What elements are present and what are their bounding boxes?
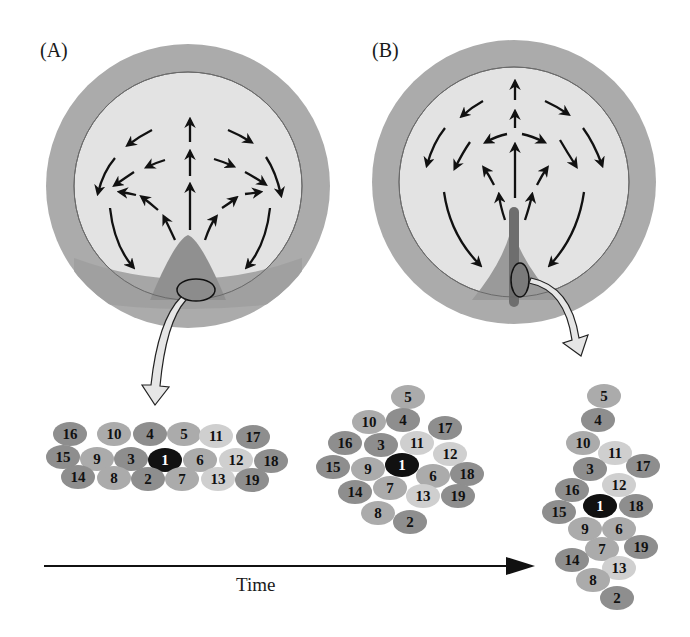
svg-text:9: 9 bbox=[581, 521, 589, 537]
svg-text:8: 8 bbox=[110, 470, 118, 486]
cell-19: 19 bbox=[235, 468, 269, 492]
cell-10: 10 bbox=[566, 431, 600, 455]
svg-text:19: 19 bbox=[451, 488, 466, 504]
cell-cluster-c: 54101131712161181596719141382 bbox=[542, 384, 660, 610]
cell-5: 5 bbox=[587, 384, 621, 408]
cell-16: 16 bbox=[555, 478, 589, 502]
svg-text:7: 7 bbox=[178, 471, 186, 487]
svg-text:13: 13 bbox=[211, 471, 226, 487]
cell-8: 8 bbox=[97, 466, 131, 490]
svg-text:14: 14 bbox=[71, 469, 87, 485]
svg-text:16: 16 bbox=[565, 482, 581, 498]
cell-9: 9 bbox=[568, 517, 602, 541]
svg-text:16: 16 bbox=[338, 435, 354, 451]
cell-12: 12 bbox=[433, 442, 467, 466]
svg-text:10: 10 bbox=[107, 426, 122, 442]
svg-text:14: 14 bbox=[565, 552, 581, 568]
svg-text:5: 5 bbox=[600, 388, 608, 404]
cell-4: 4 bbox=[581, 408, 615, 432]
svg-text:1: 1 bbox=[161, 452, 169, 468]
cell-5: 5 bbox=[391, 385, 425, 409]
cell-16: 16 bbox=[53, 422, 87, 446]
cell-2: 2 bbox=[393, 510, 427, 534]
svg-text:11: 11 bbox=[209, 428, 223, 444]
svg-text:8: 8 bbox=[589, 572, 597, 588]
svg-text:4: 4 bbox=[399, 412, 407, 428]
cell-14: 14 bbox=[555, 548, 589, 572]
svg-text:3: 3 bbox=[127, 451, 135, 467]
cell-3: 3 bbox=[573, 457, 607, 481]
svg-text:5: 5 bbox=[404, 389, 412, 405]
svg-text:1: 1 bbox=[596, 498, 604, 514]
cell-17: 17 bbox=[236, 425, 270, 449]
svg-text:13: 13 bbox=[416, 488, 431, 504]
svg-text:6: 6 bbox=[615, 521, 623, 537]
cell-14: 14 bbox=[61, 465, 95, 489]
embryo-a bbox=[46, 44, 330, 328]
embryo-b bbox=[372, 40, 656, 324]
cell-13: 13 bbox=[406, 484, 440, 508]
svg-text:9: 9 bbox=[364, 461, 372, 477]
cell-cluster-b: 51041716311121591618147131982 bbox=[316, 385, 484, 534]
cell-17: 17 bbox=[626, 454, 660, 478]
svg-text:15: 15 bbox=[326, 459, 341, 475]
svg-text:12: 12 bbox=[229, 452, 244, 468]
cell-7: 7 bbox=[373, 476, 407, 500]
svg-text:17: 17 bbox=[246, 429, 262, 445]
cell-4: 4 bbox=[386, 408, 420, 432]
cell-8: 8 bbox=[576, 568, 610, 592]
cell-2: 2 bbox=[131, 467, 165, 491]
svg-text:18: 18 bbox=[460, 466, 475, 482]
node-region-b bbox=[511, 263, 529, 297]
cell-13: 13 bbox=[201, 467, 235, 491]
svg-text:7: 7 bbox=[598, 541, 606, 557]
svg-text:17: 17 bbox=[438, 420, 454, 436]
svg-text:17: 17 bbox=[636, 458, 652, 474]
svg-text:10: 10 bbox=[576, 435, 591, 451]
svg-text:2: 2 bbox=[613, 590, 621, 606]
cell-3: 3 bbox=[364, 433, 398, 457]
svg-text:3: 3 bbox=[377, 437, 385, 453]
cell-12: 12 bbox=[602, 473, 636, 497]
cell-10: 10 bbox=[97, 422, 131, 446]
cell-1: 1 bbox=[583, 494, 617, 518]
cell-9: 9 bbox=[351, 457, 385, 481]
svg-text:6: 6 bbox=[429, 468, 437, 484]
svg-text:11: 11 bbox=[608, 445, 622, 461]
svg-text:18: 18 bbox=[264, 453, 279, 469]
cell-11: 11 bbox=[400, 431, 434, 455]
cell-19: 19 bbox=[624, 535, 658, 559]
svg-text:4: 4 bbox=[146, 426, 154, 442]
svg-text:3: 3 bbox=[586, 461, 594, 477]
cell-17: 17 bbox=[428, 416, 462, 440]
cell-5: 5 bbox=[167, 422, 201, 446]
cell-15: 15 bbox=[542, 500, 576, 524]
cell-2: 2 bbox=[600, 586, 634, 610]
svg-text:13: 13 bbox=[612, 560, 627, 576]
cell-1: 1 bbox=[385, 453, 419, 477]
cell-11: 11 bbox=[199, 424, 233, 448]
svg-text:6: 6 bbox=[196, 452, 204, 468]
cell-19: 19 bbox=[441, 484, 475, 508]
svg-text:2: 2 bbox=[144, 471, 152, 487]
cell-7: 7 bbox=[165, 467, 199, 491]
cell-18: 18 bbox=[450, 462, 484, 486]
svg-text:19: 19 bbox=[245, 472, 260, 488]
time-arrow bbox=[44, 557, 535, 575]
gastrulation-diagram: (A) (B) Time bbox=[0, 0, 690, 637]
cell-15: 15 bbox=[316, 455, 350, 479]
cell-4: 4 bbox=[133, 422, 167, 446]
svg-text:16: 16 bbox=[63, 426, 79, 442]
svg-text:2: 2 bbox=[406, 514, 414, 530]
svg-text:18: 18 bbox=[629, 498, 644, 514]
svg-text:15: 15 bbox=[552, 504, 567, 520]
svg-text:1: 1 bbox=[398, 457, 406, 473]
cell-14: 14 bbox=[338, 480, 372, 504]
svg-text:10: 10 bbox=[362, 414, 377, 430]
cell-clusters: 1610451117159316121814827131951041716311… bbox=[46, 384, 660, 610]
svg-text:8: 8 bbox=[374, 505, 382, 521]
cell-16: 16 bbox=[328, 431, 362, 455]
svg-text:4: 4 bbox=[594, 412, 602, 428]
svg-text:12: 12 bbox=[443, 446, 458, 462]
svg-text:9: 9 bbox=[93, 451, 101, 467]
